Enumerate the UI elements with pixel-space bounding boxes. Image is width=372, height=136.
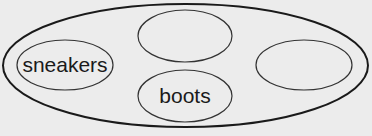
ellipse-top-empty (138, 10, 232, 62)
label-boots: boots (159, 84, 210, 107)
diagram-canvas: sneakers boots (0, 0, 372, 136)
ellipse-sneakers: sneakers (17, 40, 113, 90)
ellipse-right-empty (256, 40, 352, 90)
label-sneakers: sneakers (22, 53, 107, 76)
ellipse-boots: boots (138, 70, 232, 122)
